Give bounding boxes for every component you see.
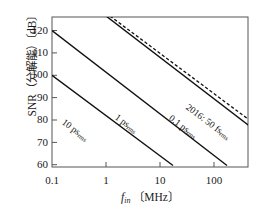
y-tick-marks — [52, 31, 57, 165]
series-line-01ps — [106, 16, 252, 128]
series-line-1ps — [52, 31, 227, 166]
series-line-2016-50fs — [110, 16, 252, 122]
data-lines — [52, 16, 252, 166]
x-tick-marks — [106, 162, 214, 167]
plot-frame — [52, 17, 248, 167]
chart-figure: SNR（分解能）〔dB〕 120 110 100 90 80 70 60 0.1… — [0, 0, 268, 210]
plot-area — [0, 0, 268, 210]
